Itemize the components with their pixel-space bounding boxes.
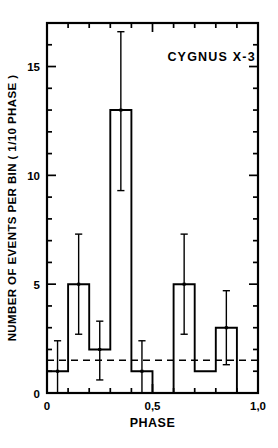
x-tick-label: 1,0 bbox=[250, 400, 266, 412]
data-point-marker bbox=[119, 109, 122, 112]
data-point-marker bbox=[183, 283, 186, 286]
histogram-chart: 05101500,51,0PHASENUMBER OF EVENTS PER B… bbox=[0, 0, 278, 448]
x-tick-label: 0,5 bbox=[145, 400, 162, 412]
y-tick-label: 15 bbox=[27, 61, 40, 73]
y-axis-label: NUMBER OF EVENTS PER BIN ( 1/10 PHASE ) bbox=[6, 75, 18, 342]
x-tick-label: 0 bbox=[44, 400, 50, 412]
figure: 05101500,51,0PHASENUMBER OF EVENTS PER B… bbox=[0, 0, 278, 448]
data-point-marker bbox=[225, 326, 228, 329]
data-point-marker bbox=[140, 370, 143, 373]
data-point-marker bbox=[77, 283, 80, 286]
y-tick-label: 0 bbox=[34, 388, 40, 400]
data-point-marker bbox=[98, 348, 101, 351]
chart-title: CYGNUS X-3 bbox=[167, 50, 255, 64]
y-tick-label: 10 bbox=[27, 170, 40, 182]
x-axis-label: PHASE bbox=[130, 416, 176, 430]
data-point-marker bbox=[56, 370, 59, 373]
y-tick-label: 5 bbox=[34, 279, 41, 291]
